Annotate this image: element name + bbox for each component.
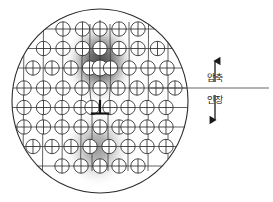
atom: [93, 22, 107, 36]
atom: [36, 120, 50, 134]
atom: [17, 100, 31, 114]
atom: [93, 41, 107, 55]
atom: [112, 159, 126, 173]
atom: [74, 120, 88, 134]
atom: [56, 81, 70, 95]
atom: [56, 41, 70, 55]
atom: [150, 41, 164, 55]
atom: [75, 22, 89, 36]
atom: [131, 41, 145, 55]
atom: [74, 159, 88, 173]
atom: [45, 139, 59, 153]
atom: [17, 120, 31, 134]
atom: [140, 120, 154, 134]
atom: [131, 159, 145, 173]
atom: [141, 61, 155, 75]
atom: [26, 139, 40, 153]
atom: [103, 61, 117, 75]
atom: [130, 81, 144, 95]
atom: [36, 100, 50, 114]
edge-dislocation-figure: 압축 인장: [0, 0, 273, 202]
atom: [93, 159, 107, 173]
atom: [140, 100, 154, 114]
atom: [121, 100, 135, 114]
atom: [121, 139, 135, 153]
atom: [55, 120, 69, 134]
atom: [121, 120, 135, 134]
atom: [159, 120, 173, 134]
atom: [159, 139, 173, 153]
atom: [36, 81, 50, 95]
compression-label: 압축: [207, 71, 223, 84]
diagram-canvas: [0, 0, 273, 202]
atom: [56, 22, 70, 36]
atom: [55, 100, 69, 114]
atom: [55, 159, 69, 173]
atom: [75, 41, 89, 55]
atom: [93, 120, 107, 134]
tension-label: 인장: [207, 93, 223, 106]
atom: [26, 61, 40, 75]
atom: [131, 22, 145, 36]
atom: [93, 81, 107, 95]
atom: [45, 61, 59, 75]
atom: [122, 61, 136, 75]
atom: [102, 139, 116, 153]
atom: [64, 139, 78, 153]
atom: [36, 41, 50, 55]
atom: [140, 139, 154, 153]
atom: [111, 81, 125, 95]
atom: [159, 100, 173, 114]
atom: [83, 139, 97, 153]
atom: [17, 81, 31, 95]
atom: [112, 41, 126, 55]
atom: [160, 61, 174, 75]
atom: [75, 81, 89, 95]
atom: [64, 61, 78, 75]
atom: [112, 22, 126, 36]
